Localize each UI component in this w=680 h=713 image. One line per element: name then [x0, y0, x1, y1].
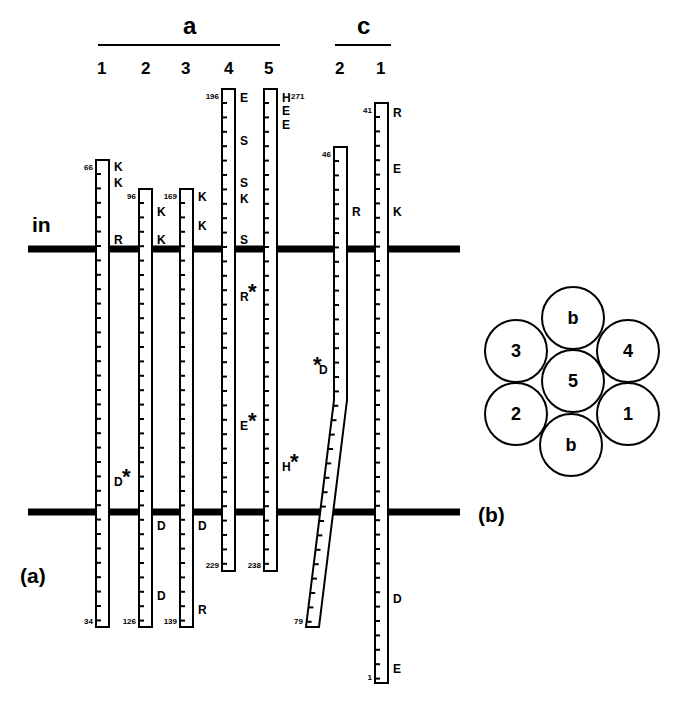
- helix-top-residue-number: 96: [127, 192, 136, 201]
- helix-bottom-residue-number: 126: [123, 617, 137, 626]
- helix-top-residue-number: 41: [363, 106, 372, 115]
- helix-top-residue-number: 66: [84, 163, 93, 172]
- helix-top-residue-number: 169: [164, 192, 178, 201]
- residue-label: D: [393, 592, 402, 606]
- helix-top-residue-number: 196: [206, 92, 220, 101]
- panel-b-helix-packing: b 3 4 5 2 1 b: [485, 287, 659, 476]
- helix-bottom-residue-number: 238: [248, 561, 262, 570]
- helix-number-a1: 1: [97, 59, 106, 78]
- residue-label: K: [114, 176, 123, 190]
- residue-label: D: [157, 589, 166, 603]
- circle-b-top: b: [542, 287, 604, 349]
- helix-bottom-residue-number: 139: [164, 617, 178, 626]
- asterisk-icon: *: [290, 449, 299, 474]
- helix-body: [139, 189, 152, 627]
- helix-top-residue-number: 271: [291, 92, 305, 101]
- svg-text:b: b: [568, 308, 579, 328]
- helix-bottom-residue-number: 34: [84, 617, 93, 626]
- residue-label: S: [240, 176, 248, 190]
- residue-label: K: [393, 205, 402, 219]
- circle-2: 2: [485, 383, 547, 445]
- circle-4: 4: [597, 320, 659, 382]
- helix-number-c2: 2: [335, 59, 344, 78]
- residue-label: R: [393, 106, 402, 120]
- circle-5: 5: [542, 350, 604, 412]
- helix-number-a3: 3: [181, 59, 190, 78]
- helices-group: 6634KKRD*96126KKDD169139KKDR196229ESSKSR…: [84, 89, 402, 683]
- helix-a4: 196229ESSKSR*E*: [206, 89, 257, 571]
- helix-body: [96, 160, 109, 627]
- circle-1: 1: [597, 383, 659, 445]
- residue-label: E: [393, 662, 401, 676]
- helix-a2: 96126KKDD: [123, 189, 166, 627]
- residue-label: E: [282, 118, 290, 132]
- asterisk-icon: *: [248, 279, 257, 304]
- svg-text:b: b: [566, 435, 577, 455]
- residue-label: E: [240, 91, 248, 105]
- helix-number-a4: 4: [224, 59, 234, 78]
- helix-number-a2: 2: [141, 59, 150, 78]
- residue-label-conserved: E: [240, 419, 248, 433]
- residue-label: E: [282, 104, 290, 118]
- helix-a1: 6634KKRD*: [84, 160, 131, 627]
- asterisk-icon: *: [122, 464, 131, 489]
- asterisk-icon: *: [248, 408, 257, 433]
- inside-label: in: [32, 213, 51, 236]
- residue-label: K: [198, 190, 207, 204]
- helix-bottom-residue-number: 229: [206, 561, 220, 570]
- residue-label: K: [240, 192, 249, 206]
- svg-text:3: 3: [511, 341, 521, 361]
- helix-c1: 411REKDE: [363, 103, 402, 683]
- helix-a3: 169139KKDR: [164, 189, 207, 627]
- svg-text:5: 5: [568, 371, 578, 391]
- helix-number-c1: 1: [376, 59, 385, 78]
- circle-3: 3: [485, 320, 547, 382]
- residue-label: S: [240, 233, 248, 247]
- asterisk-icon: *: [313, 352, 322, 377]
- residue-label: K: [114, 160, 123, 174]
- residue-label: D: [198, 519, 207, 533]
- residue-label: R: [198, 603, 207, 617]
- residue-label: K: [198, 219, 207, 233]
- svg-text:1: 1: [623, 404, 633, 424]
- helix-body: [180, 189, 193, 627]
- residue-label: H: [282, 91, 291, 105]
- helix-body: [306, 147, 347, 627]
- residue-label: K: [157, 233, 166, 247]
- helix-top-residue-number: 46: [322, 150, 331, 159]
- residue-label: R: [352, 205, 361, 219]
- helix-a5: 271238HEEH*: [248, 89, 305, 571]
- group-a-label: a: [183, 12, 197, 39]
- circle-b-bottom: b: [540, 414, 602, 476]
- panel-a-label: (a): [20, 564, 46, 587]
- residue-label: K: [157, 205, 166, 219]
- helix-c2: 4679RD*: [294, 147, 361, 627]
- helix-bottom-residue-number: 1: [368, 673, 373, 682]
- residue-label: D: [157, 519, 166, 533]
- residue-label: E: [393, 162, 401, 176]
- svg-text:4: 4: [623, 341, 633, 361]
- helix-number-a5: 5: [264, 59, 273, 78]
- panel-b-label: (b): [478, 503, 505, 526]
- helix-bottom-residue-number: 79: [294, 617, 303, 626]
- group-c-label: c: [357, 12, 370, 39]
- residue-label: S: [240, 134, 248, 148]
- residue-label: R: [114, 233, 123, 247]
- svg-text:2: 2: [511, 404, 521, 424]
- membrane-topology-diagram: a c 1 2 3 4 5 2 1 in (a) 6634KKRD*96126K…: [0, 0, 680, 713]
